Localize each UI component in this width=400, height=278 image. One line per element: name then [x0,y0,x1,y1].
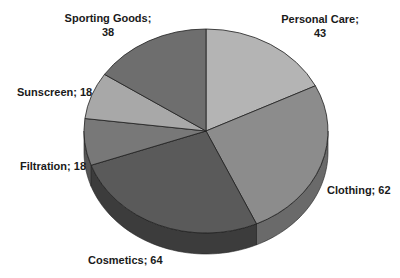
label-sunscreen-text: Sunscreen; 18 [17,85,92,99]
label-clothing: Clothing; 62 [327,183,391,197]
label-sporting-goods-name: Sporting Goods; [58,11,158,25]
label-sporting-goods: Sporting Goods; 38 [58,11,158,39]
label-clothing-text: Clothing; 62 [327,183,391,197]
label-filtration-text: Filtration; 18 [20,159,86,173]
label-filtration: Filtration; 18 [20,159,86,173]
label-personal-care: Personal Care; 43 [272,12,368,40]
pie-chart [0,0,400,278]
label-personal-care-value: 43 [272,26,368,40]
label-sporting-goods-value: 38 [58,25,158,39]
label-personal-care-name: Personal Care; [272,12,368,26]
label-sunscreen: Sunscreen; 18 [17,85,92,99]
label-cosmetics: Cosmetics; 64 [88,253,163,267]
label-cosmetics-text: Cosmetics; 64 [88,253,163,267]
